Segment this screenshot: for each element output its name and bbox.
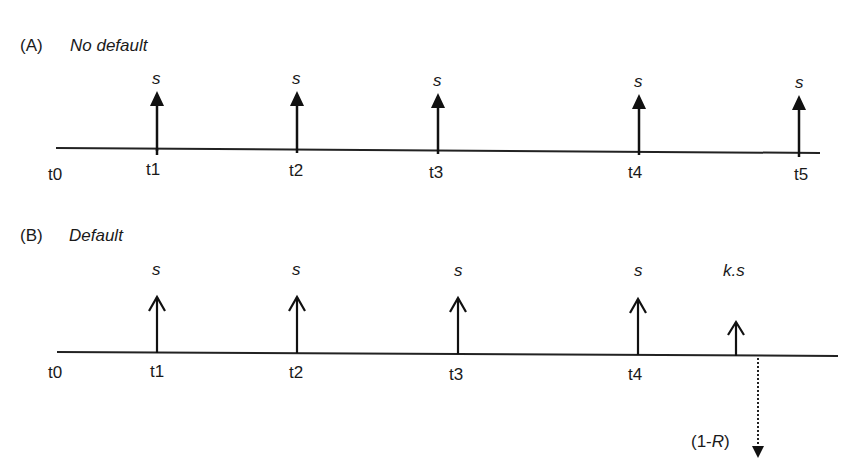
tick-label-b-t3: t3 [449,365,463,384]
payment-label-b-t2: s [292,260,301,279]
payment-arrow-a-t1 [150,91,164,155]
panel-a-title: No default [70,36,149,55]
timeline-a-t0-label: t0 [48,165,62,184]
cds-cashflow-diagram: (A) No default t0 s t1 s t2 s t3 [0,0,859,475]
arrowhead-up-icon [632,94,646,109]
arrowhead-up-icon [431,93,445,108]
accrued-payment-arrow [728,322,744,356]
payment-arrow-a-t4 [632,94,646,155]
payment-label-b-t4: s [634,261,643,280]
payment-label-b-t1: s [152,260,161,279]
payment-label-a-t1: s [152,69,161,88]
panel-b-title: Default [69,226,124,245]
tick-label-a-t1: t1 [146,160,160,179]
accrued-payment-label: k.s [723,261,745,280]
payment-arrow-a-t5 [792,95,806,157]
tick-label-b-t1: t1 [150,362,164,381]
payment-arrow-b-t2 [289,297,305,353]
panel-b: (B) Default t0 s t1 s t2 s t3 s t4 [20,226,838,458]
payment-arrow-b-t1 [149,297,165,353]
tick-label-a-t2: t2 [289,161,303,180]
panel-b-prefix: (B) [20,226,43,245]
default-loss-arrow [752,358,764,458]
payment-arrow-b-t3 [450,298,466,354]
payment-arrow-b-t4 [630,299,646,355]
tick-label-a-t4: t4 [628,163,642,182]
tick-label-b-t2: t2 [289,363,303,382]
default-loss-label: (1-R) [691,432,730,451]
payment-arrow-a-t2 [290,91,304,153]
payment-arrow-a-t3 [431,93,445,154]
tick-label-a-t3: t3 [429,163,443,182]
arrowhead-up-icon [290,91,304,106]
payment-label-a-t3: s [433,71,442,90]
arrowhead-down-icon [752,446,764,458]
timeline-b-axis [57,352,838,356]
tick-label-b-t4: t4 [628,365,642,384]
payment-label-b-t3: s [454,261,463,280]
timeline-b-t0-label: t0 [48,363,62,382]
arrowhead-up-icon [792,95,806,110]
payment-label-a-t5: s [795,73,804,92]
panel-a: (A) No default t0 s t1 s t2 s t3 [20,36,820,184]
arrowhead-up-icon [150,91,164,106]
payment-label-a-t4: s [634,72,643,91]
panel-a-prefix: (A) [20,36,43,55]
payment-label-a-t2: s [292,69,301,88]
tick-label-a-t5: t5 [794,165,808,184]
